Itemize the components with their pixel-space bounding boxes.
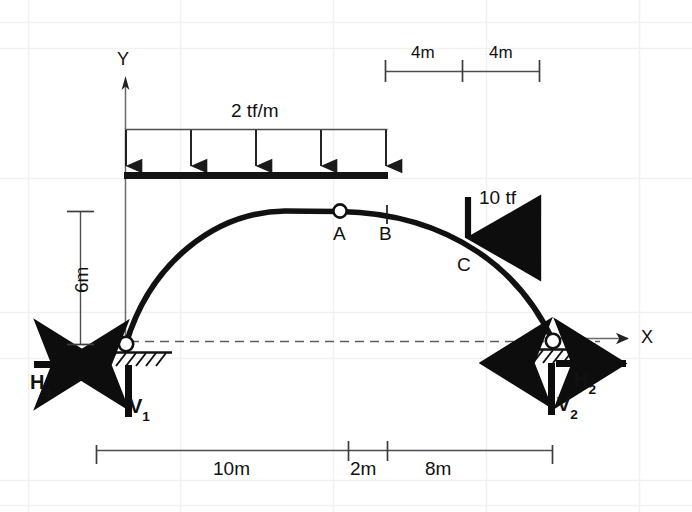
reaction-h1-base: H [30,371,44,393]
point-b-label: B [379,224,392,243]
reaction-v1-base: V [129,395,142,417]
reaction-h2-subscript: 2 [588,382,596,397]
crown-hinge-a [333,204,346,217]
reaction-h1-label: H1 [30,372,52,397]
reaction-h2-base: H [574,368,588,390]
reaction-v1-label: V1 [129,396,150,421]
reaction-v2-subscript: 2 [570,407,578,422]
point-load-label: 10 tf [479,188,516,207]
dimension-2m-label: 2m [350,459,376,478]
dimension-top-4m-4m [385,60,540,82]
reaction-v2-label: V2 [557,394,578,419]
diagram-canvas: Y X 2 tf/m 10 tf A B C 6m 4m 4m 10m 2m 8… [0,0,692,512]
dimension-10m-label: 10m [213,459,250,478]
dimension-6m-label: 6m [72,267,91,293]
reaction-v1-subscript: 1 [142,409,150,424]
y-axis [122,76,130,348]
reaction-h2-label: H2 [574,369,596,394]
distributed-load-group [124,130,388,180]
dimension-4m-right-label: 4m [489,44,513,61]
diagram-linework [0,0,692,512]
y-axis-label: Y [117,50,129,68]
x-axis-label: X [641,328,653,346]
dimension-4m-left-label: 4m [411,44,435,61]
point-c-label: C [457,255,471,274]
reaction-v2-base: V [557,393,570,415]
point-a-label: A [333,224,346,243]
distributed-load-label: 2 tf/m [231,101,279,120]
dimension-bottom-span [96,441,553,464]
dimension-8m-label: 8m [425,459,451,478]
reaction-h1-subscript: 1 [44,385,52,400]
